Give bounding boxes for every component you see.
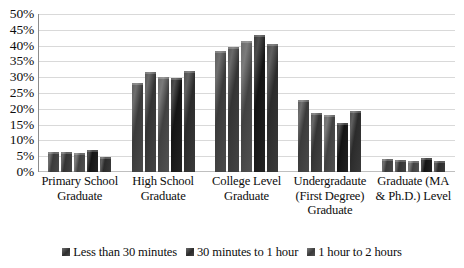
x-axis-label-line: Graduate — [206, 189, 287, 204]
x-axis-label-line: Graduate — [289, 203, 370, 218]
x-axis-label-line: Undergradaute — [289, 174, 370, 189]
bar-series-1 — [61, 152, 72, 172]
bar-group-graduate-ma-phd-level — [372, 14, 455, 172]
y-axis-tick: 25% — [10, 86, 34, 100]
legend-item-label: 30 minutes to 1 hour — [197, 246, 298, 259]
legend-item-label: Less than 30 minutes — [73, 246, 177, 259]
bar-series-4 — [267, 44, 278, 172]
x-axis-label-graduate-ma-phd-level: Graduate (MA & Ph.D.) Level — [372, 174, 455, 218]
x-axis-label-line: (First Degree) — [289, 189, 370, 204]
bar-series-2 — [158, 77, 169, 172]
x-axis-label-line: High School — [122, 174, 203, 189]
bar-series-1 — [311, 113, 322, 172]
bar-series-4 — [350, 111, 361, 172]
y-axis-tick: 45% — [10, 23, 34, 37]
x-axis-label-primary-school-graduate: Primary School Graduate — [38, 174, 121, 218]
bar-series-0 — [298, 100, 309, 172]
bar-group-primary-school-graduate — [38, 14, 121, 172]
bar-series-3 — [421, 158, 432, 172]
y-axis-tick: 40% — [10, 39, 34, 53]
bar-series-3 — [171, 78, 182, 172]
y-axis-tick: 15% — [10, 118, 34, 132]
x-axis-category-labels: Primary School Graduate High School Grad… — [38, 174, 455, 218]
y-axis-tick: 35% — [10, 54, 34, 67]
bar-series-2 — [408, 161, 419, 172]
x-axis-label-line: Graduate (MA — [373, 174, 454, 189]
bar-series-1 — [228, 47, 239, 172]
legend-item-label: 1 hour to 2 hours — [318, 246, 402, 259]
bar-series-1 — [395, 160, 406, 172]
bar-series-4 — [434, 161, 445, 172]
legend-item-less-than-30-minutes[interactable]: Less than 30 minutes — [62, 246, 177, 259]
bar-group-high-school-graduate — [121, 14, 204, 172]
legend-item-30-minutes-to-1-hour[interactable]: 30 minutes to 1 hour — [186, 246, 298, 259]
y-axis-tick: 10% — [10, 133, 34, 147]
bar-group-college-level-graduate — [205, 14, 288, 172]
bar-chart: 50% 45% 40% 35% 30% 25% 20% 15% 10% 5% 0… — [0, 0, 464, 268]
y-axis-tick: 0% — [16, 165, 34, 179]
bar-series-0 — [48, 152, 59, 172]
legend-swatch-icon — [307, 248, 315, 256]
x-axis-label-line: College Level — [206, 174, 287, 189]
bar-series-4 — [100, 157, 111, 172]
legend-swatch-icon — [186, 248, 194, 256]
y-axis-tick: 50% — [10, 7, 34, 21]
bar-series-3 — [87, 150, 98, 172]
bar-series-0 — [215, 51, 226, 172]
y-axis-tick: 30% — [10, 70, 34, 84]
plot-area — [38, 14, 455, 172]
legend-swatch-icon — [62, 248, 70, 256]
x-axis-label-line: Graduate — [39, 189, 120, 204]
bar-groups — [38, 14, 455, 172]
bar-group-undergraduate-first-degree-graduate — [288, 14, 371, 172]
x-axis-label-line: & Ph.D.) Level — [373, 189, 454, 204]
plot-wrapper: 50% 45% 40% 35% 30% 25% 20% 15% 10% 5% 0… — [0, 0, 464, 190]
bar-series-3 — [337, 123, 348, 172]
bar-series-2 — [324, 115, 335, 172]
y-axis-tick: 5% — [16, 149, 34, 163]
bar-series-0 — [132, 83, 143, 172]
x-axis-label-undergraduate-first-degree-graduate: Undergradaute (First Degree) Graduate — [288, 174, 371, 218]
bar-series-3 — [254, 35, 265, 172]
bar-series-2 — [241, 41, 252, 172]
chart-legend: Less than 30 minutes 30 minutes to 1 hou… — [0, 246, 464, 259]
x-axis-label-line: Primary School — [39, 174, 120, 189]
legend-item-1-hour-to-2-hours[interactable]: 1 hour to 2 hours — [307, 246, 402, 259]
bar-series-2 — [74, 153, 85, 172]
bar-series-0 — [382, 159, 393, 172]
x-axis-label-college-level-graduate: College Level Graduate — [205, 174, 288, 218]
x-axis-label-line: Graduate — [122, 189, 203, 204]
x-axis-label-high-school-graduate: High School Graduate — [121, 174, 204, 218]
bar-series-4 — [184, 71, 195, 172]
y-axis-tick: 20% — [10, 102, 34, 116]
bar-series-1 — [145, 72, 156, 172]
y-axis-tick-labels: 50% 45% 40% 35% 30% 25% 20% 15% 10% 5% 0… — [0, 0, 36, 190]
